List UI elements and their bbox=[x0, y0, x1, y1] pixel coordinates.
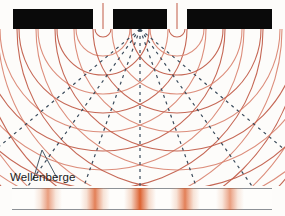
barrier-block-right bbox=[187, 9, 272, 29]
fringe-order-minus-1 bbox=[80, 188, 110, 210]
wave-field-diagram bbox=[0, 0, 285, 216]
wave-crests-group bbox=[0, 0, 285, 216]
wellenberge-label: Wellenberge bbox=[10, 171, 75, 183]
fringe-order-plus-2 bbox=[216, 188, 244, 210]
barrier-block-left bbox=[13, 9, 93, 29]
fringe-order-minus-2 bbox=[34, 188, 62, 210]
interference-pattern-strip bbox=[12, 188, 272, 210]
double-slit-interference-figure: Wellenberge bbox=[0, 0, 285, 216]
fringe-order-zero bbox=[124, 188, 156, 210]
fringe-order-plus-1 bbox=[170, 188, 200, 210]
barrier-block-middle bbox=[113, 9, 167, 29]
